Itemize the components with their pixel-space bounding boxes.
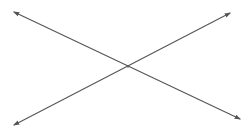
intersection-point <box>127 66 129 68</box>
line-ascending <box>14 13 230 125</box>
line-descending <box>14 12 240 119</box>
intersecting-lines-diagram <box>0 0 245 130</box>
